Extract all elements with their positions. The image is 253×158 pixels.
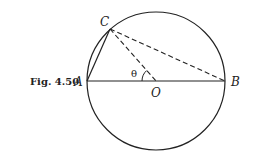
point-b-label: B xyxy=(230,75,240,89)
figure-caption: Fig. 4.50 xyxy=(30,76,79,87)
chord-ac xyxy=(87,29,110,81)
point-a-label: A xyxy=(73,75,83,89)
diagram-canvas: Fig. 4.50 θ A B C O xyxy=(0,0,253,158)
chord-cb xyxy=(110,29,225,81)
angle-arc xyxy=(142,71,147,82)
point-c-label: C xyxy=(100,15,109,29)
point-o-label: O xyxy=(151,86,161,100)
angle-theta-label: θ xyxy=(131,68,137,79)
